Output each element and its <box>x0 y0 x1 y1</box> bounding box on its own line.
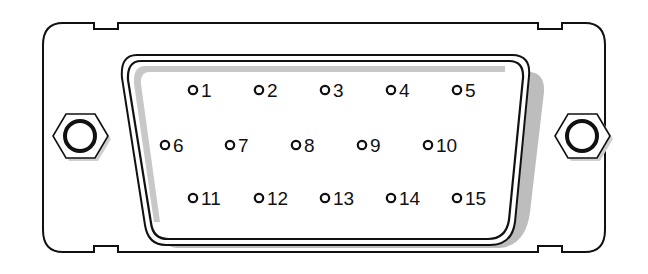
pin-label: 13 <box>333 188 354 209</box>
d-shell-inner <box>128 61 523 239</box>
pin-label: 8 <box>304 135 315 156</box>
pin-label: 1 <box>201 80 212 101</box>
pin-label: 9 <box>370 135 381 156</box>
pin-label: 4 <box>399 80 410 101</box>
db15-connector-diagram: 123456789101112131415 <box>0 0 648 274</box>
pin-label: 5 <box>465 80 476 101</box>
pin-label: 10 <box>436 135 457 156</box>
pin-label: 11 <box>201 188 221 209</box>
pin-label: 12 <box>267 188 288 209</box>
pin-label: 14 <box>399 188 421 209</box>
pin-label: 3 <box>333 80 344 101</box>
pin-label: 6 <box>173 135 184 156</box>
pin-label: 7 <box>238 135 249 156</box>
pin-label: 15 <box>465 188 486 209</box>
pin-label: 2 <box>267 80 278 101</box>
